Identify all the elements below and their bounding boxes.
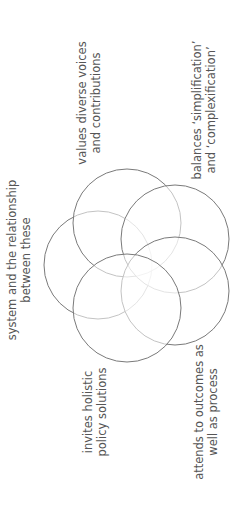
label-outcomes-line1: attends to outcomes as — [192, 344, 206, 480]
label-systems-line1: system and the relationship — [5, 180, 19, 341]
circle-holistic — [73, 254, 181, 362]
label-systems: system and the relationship between thes… — [5, 180, 33, 341]
label-balances-line1: balances ‘simplification’ — [190, 41, 204, 180]
label-balances-line2: and ‘complexification’ — [204, 41, 218, 180]
label-voices-line1: values diverse voices — [75, 41, 89, 164]
label-holistic-line1: invites holistic — [81, 367, 95, 456]
label-voices-line2: and contributions — [89, 41, 103, 164]
label-balances: balances ‘simplification’ and ‘complexif… — [190, 41, 218, 180]
label-outcomes: attends to outcomes as well as process — [192, 344, 220, 480]
label-outcomes-line2: well as process — [206, 344, 220, 480]
label-holistic: invites holistic policy solutions — [81, 367, 109, 456]
label-holistic-line2: policy solutions — [95, 367, 109, 456]
label-voices: values diverse voices and contributions — [75, 41, 103, 164]
label-systems-line2: between these — [19, 180, 33, 341]
